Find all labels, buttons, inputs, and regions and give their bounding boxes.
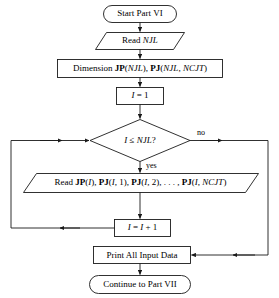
var-ncjt: NCJT [183, 63, 204, 73]
var-i-3: I [144, 177, 147, 187]
var-i-lhs: I [128, 222, 131, 232]
print-process-label: Print All Input Data [93, 251, 191, 260]
var-ncjt-loop: NCJT [202, 177, 223, 187]
decision-diamond-label: I ≤ NJL? [90, 136, 190, 145]
var-njl-1: NJL [128, 63, 143, 73]
var-i-4: I [195, 177, 198, 187]
var-njl-cond: NJL [137, 135, 152, 145]
continue-terminator-label: Continue to Part VII [89, 280, 191, 289]
yes-branch-label: yes [146, 162, 157, 170]
edge-decision-no-to-print [190, 141, 268, 256]
var-njl: NJL [143, 35, 158, 45]
increment-i-process-label: I = I + 1 [114, 223, 171, 232]
read-njl-io-label: Read NJL [96, 36, 184, 45]
var-jp-loop: JP [75, 177, 85, 187]
var-jp: JP [115, 63, 125, 73]
var-i-cond: I [124, 135, 127, 145]
read-loop-io-label: Read JP(I), PJ(I, 1), PJ(I, 2), . . . , … [23, 178, 258, 187]
flowchart-canvas: Start Part VI Read NJL Dimension JP(NJL)… [0, 0, 279, 298]
var-i-2: I [112, 177, 115, 187]
no-branch-label: no [197, 129, 205, 137]
dimension-process-label: Dimension JP(NJL), PJ(NJL, NCJT) [57, 64, 223, 73]
var-i-init: I [131, 90, 134, 100]
init-i-process-label: I = 1 [116, 91, 164, 100]
var-pj: PJ [150, 63, 160, 73]
start-terminator-label: Start Part VI [103, 9, 177, 18]
var-i-rhs: I [140, 222, 143, 232]
var-njl-2: NJL [163, 63, 178, 73]
var-i-1: I [88, 177, 91, 187]
var-pj-n: PJ [182, 177, 192, 187]
var-pj-2: PJ [131, 177, 141, 187]
var-pj-1: PJ [99, 177, 109, 187]
